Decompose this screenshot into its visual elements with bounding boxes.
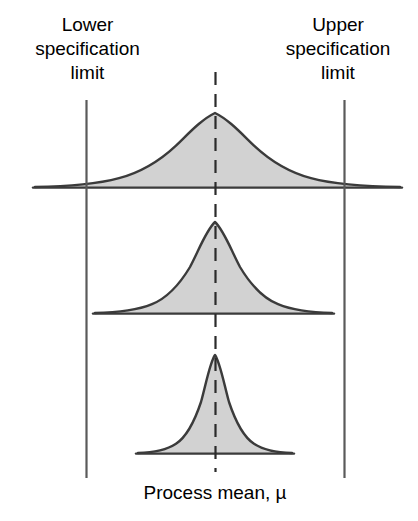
- upper-spec-line-3: limit: [258, 61, 418, 85]
- process-mean-axis-label: Process mean, µ: [95, 482, 335, 504]
- lower-spec-line-3: limit: [0, 61, 175, 85]
- lower-specification-limit-label: Lower specification limit: [0, 13, 175, 85]
- process-capability-figure: Lower specification limit Upper specific…: [0, 0, 418, 521]
- curve-wide-distribution: [33, 113, 402, 188]
- lower-spec-line-2: specification: [0, 37, 175, 61]
- curve-medium-distribution-area: [95, 222, 332, 313]
- lower-spec-line-1: Lower: [0, 13, 175, 37]
- upper-spec-line-1: Upper: [258, 13, 418, 37]
- upper-spec-line-2: specification: [258, 37, 418, 61]
- upper-specification-limit-label: Upper specification limit: [258, 13, 418, 85]
- curve-medium-distribution: [93, 222, 334, 314]
